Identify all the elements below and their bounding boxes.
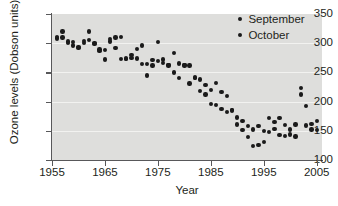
data-point-october [272,127,276,131]
data-point-october [219,107,223,111]
data-point-october [230,108,234,112]
data-point-september [225,94,229,98]
x-axis-tick-label: 1965 [82,166,128,178]
data-point-september [103,57,107,61]
data-point-october [60,35,64,39]
data-point-september [187,63,191,67]
data-point-october [172,70,176,74]
data-point-october [150,58,154,62]
y-axis-line [51,13,52,161]
data-point-october [262,140,266,144]
data-point-october [293,134,297,138]
y-axis-tick-label: 350 [289,8,333,19]
data-point-september [293,122,297,126]
data-point-october [277,133,281,137]
x-axis-tick-label: 2005 [294,166,338,178]
data-point-september [309,122,313,126]
y-axis-tick [46,72,52,73]
y-axis-tick [46,43,52,44]
data-point-october [203,92,207,96]
data-point-october [145,73,149,77]
data-point-september [272,120,276,124]
x-axis-tick-label: 1995 [241,166,287,178]
data-point-october [193,75,197,79]
data-point-october [209,102,213,106]
data-point-october [182,63,186,67]
data-point-september [119,35,123,39]
y-axis-tick [46,102,52,103]
data-point-october [76,46,80,50]
x-axis-title: Year [52,184,322,196]
legend-label-october: October [248,29,289,41]
data-point-october [129,53,133,57]
x-axis-line [51,160,323,161]
y-axis-tick-label: 200 [289,96,333,107]
data-point-september [288,132,292,136]
gridline [52,72,322,73]
data-point-october [135,56,139,60]
data-point-september [198,77,202,81]
x-axis-tick-label: 1975 [135,166,181,178]
y-axis-tick [46,131,52,132]
legend-marker-icon [238,17,242,21]
data-point-september [240,119,244,123]
data-point-september [60,29,64,33]
data-point-october [309,127,313,131]
data-point-september [277,116,281,120]
data-point-september [140,43,144,47]
data-point-september [113,46,117,50]
y-axis-tick [46,14,52,15]
data-point-september [315,119,319,123]
data-point-september [177,61,181,65]
y-axis-title: Ozone levels (Dobson units) [8,0,20,147]
data-point-october [156,59,160,63]
data-point-october [187,81,191,85]
data-point-september [209,88,213,92]
data-point-october [166,63,170,67]
y-axis-tick-label: 300 [289,37,333,48]
data-point-october [299,92,303,96]
data-point-september [150,63,154,67]
y-axis-tick-label: 100 [289,154,333,165]
data-point-september [135,47,139,51]
x-axis-tick-label: 1985 [188,166,234,178]
data-point-october [256,143,260,147]
gridline [52,131,322,132]
legend-marker-icon [238,33,242,37]
data-point-october [97,47,101,51]
gridline [52,102,322,103]
data-point-september [256,124,260,128]
x-axis-tick-label: 1955 [29,166,75,178]
data-point-september [262,129,266,133]
data-point-october [304,123,308,127]
data-point-september [87,29,91,33]
data-point-october [113,35,117,39]
y-axis-tick-label: 250 [289,66,333,77]
data-point-october [92,42,96,46]
